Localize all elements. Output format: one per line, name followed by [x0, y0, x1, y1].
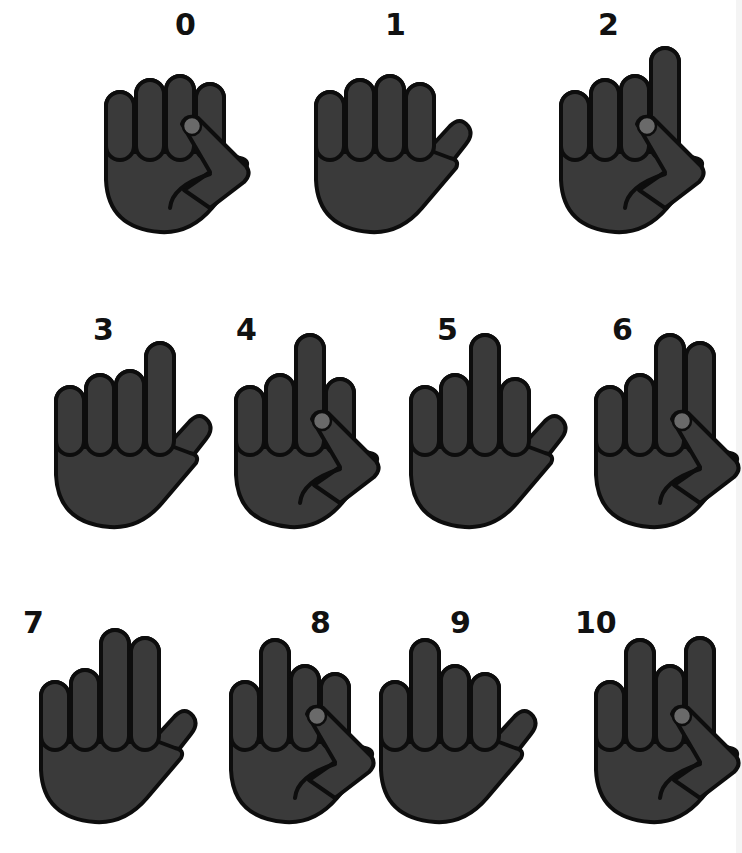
number-label: 7 — [23, 608, 44, 638]
number-label: 0 — [175, 10, 196, 40]
hand-icon — [100, 40, 260, 240]
number-label: 9 — [450, 608, 471, 638]
number-label: 3 — [93, 315, 114, 345]
number-label: 1 — [385, 10, 406, 40]
hand-icon — [375, 630, 535, 830]
hand-icon — [405, 335, 565, 535]
hand-icon — [230, 335, 390, 535]
number-label: 10 — [575, 608, 617, 638]
hand-icon — [225, 630, 385, 830]
hand-icon — [590, 335, 742, 535]
hand-icon — [50, 335, 210, 535]
hand-icon — [555, 40, 715, 240]
hand-icon — [35, 630, 195, 830]
number-label: 6 — [612, 315, 633, 345]
number-label: 4 — [236, 315, 257, 345]
number-label: 5 — [437, 315, 458, 345]
number-label: 2 — [598, 10, 619, 40]
number-label: 8 — [310, 608, 331, 638]
hand-icon — [590, 630, 742, 830]
hand-icon — [310, 40, 470, 240]
